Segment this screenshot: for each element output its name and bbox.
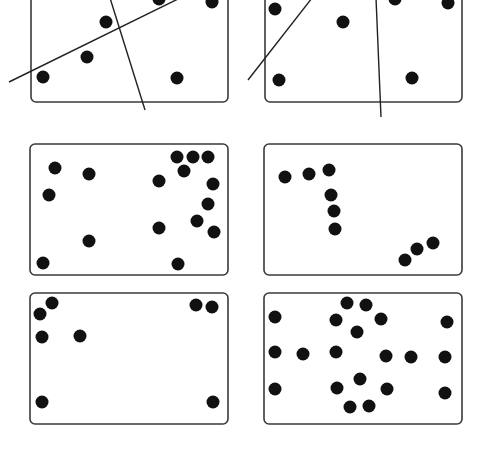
dot	[360, 299, 373, 312]
dot	[153, 222, 166, 235]
dot	[269, 3, 282, 16]
dot	[83, 235, 96, 248]
panel-middle-right	[264, 144, 462, 275]
dot	[297, 348, 310, 361]
dot	[171, 72, 184, 85]
dot	[178, 165, 191, 178]
dot	[191, 215, 204, 228]
dot	[344, 401, 357, 414]
panel-top-right	[248, 0, 462, 117]
dot	[187, 151, 200, 164]
dot	[207, 396, 220, 409]
dot	[100, 16, 113, 29]
dot	[406, 72, 419, 85]
dot	[325, 189, 338, 202]
dot	[399, 254, 412, 267]
dot	[341, 297, 354, 310]
dot	[37, 71, 50, 84]
panel-frame	[264, 144, 462, 275]
dot	[331, 382, 344, 395]
dot	[269, 383, 282, 396]
dot	[206, 301, 219, 314]
dot	[427, 237, 440, 250]
dot	[37, 257, 50, 270]
dot	[36, 396, 49, 409]
dot	[202, 198, 215, 211]
dot	[328, 205, 341, 218]
dot	[43, 189, 56, 202]
dot	[405, 351, 418, 364]
dot	[208, 226, 221, 239]
dot	[269, 311, 282, 324]
dot	[329, 223, 342, 236]
dot	[171, 151, 184, 164]
panel-frame	[265, 0, 462, 102]
panel-frame	[30, 293, 228, 424]
dot	[411, 243, 424, 256]
dot	[330, 346, 343, 359]
panel-top-left	[9, 0, 228, 110]
dot	[375, 313, 388, 326]
panels-layer	[9, 0, 462, 424]
dot	[354, 373, 367, 386]
dot	[380, 350, 393, 363]
dot	[269, 346, 282, 359]
dot	[172, 258, 185, 271]
dot	[190, 299, 203, 312]
dot	[46, 297, 59, 310]
dot	[83, 168, 96, 181]
dot	[303, 168, 316, 181]
dot	[330, 314, 343, 327]
dot	[207, 178, 220, 191]
panel-frame	[31, 0, 228, 102]
panel-bottom-left	[30, 293, 228, 424]
dot	[381, 383, 394, 396]
dot	[439, 351, 452, 364]
dot	[202, 151, 215, 164]
dot	[49, 162, 62, 175]
dot	[323, 164, 336, 177]
dot-clustering-diagram	[0, 0, 484, 449]
dot	[337, 16, 350, 29]
dot	[153, 175, 166, 188]
panel-middle-left	[30, 144, 228, 275]
dot	[363, 400, 376, 413]
dot	[279, 171, 292, 184]
dot	[273, 74, 286, 87]
dot	[351, 326, 364, 339]
dot	[441, 316, 454, 329]
dot	[36, 331, 49, 344]
dot	[439, 387, 452, 400]
dot	[81, 51, 94, 64]
dot	[34, 308, 47, 321]
dot	[74, 330, 87, 343]
panel-bottom-right	[264, 293, 462, 424]
